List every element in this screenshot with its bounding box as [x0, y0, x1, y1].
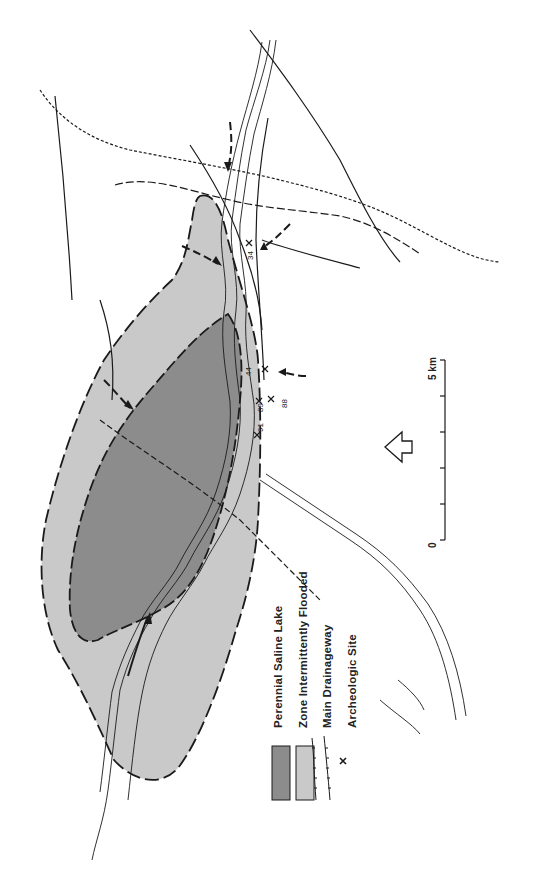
scale-label-end: 5 km — [427, 357, 438, 380]
site-label-88: 88 — [280, 399, 289, 408]
southeast-channel — [260, 474, 466, 734]
site-label-44: 44 — [244, 367, 253, 376]
map-canvas — [0, 0, 547, 872]
scale-bar — [440, 360, 445, 540]
site-label-89: 89 — [256, 403, 265, 412]
north-arrow-icon — [385, 432, 412, 462]
site-label-34: 34 — [246, 251, 255, 260]
legend-x-icon — [340, 758, 346, 764]
legend-label-perennial-lake: Perennial Saline Lake — [272, 606, 284, 728]
legend-label-main-drainageway: Main Drainageway — [321, 624, 333, 728]
scale-label-start: 0 — [427, 542, 438, 548]
legend-hachure-icon — [312, 736, 331, 800]
legend-swatch-perennial-lake — [272, 746, 290, 800]
site-label-91: 91 — [256, 423, 265, 432]
legend-swatch-intermittent-zone — [296, 746, 314, 800]
legend-label-archeologic-site: Archeologic Site — [346, 634, 358, 728]
legend-label-intermittent-zone: Zone Intermittently Flooded — [297, 571, 309, 728]
